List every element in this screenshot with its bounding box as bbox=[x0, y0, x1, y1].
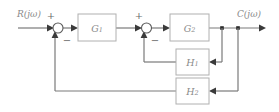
diagram-canvas: G1 G2 H1 H2 + − + − R(jω) C(jω) bbox=[0, 0, 279, 112]
sum2-minus-sign: − bbox=[151, 35, 159, 46]
sum2-plus-sign: + bbox=[135, 10, 143, 21]
arrow-into-sum2 bbox=[135, 25, 142, 32]
arrow-into-g1 bbox=[71, 25, 78, 32]
sum1-plus-sign: + bbox=[47, 10, 55, 21]
summing-junction-1 bbox=[53, 23, 63, 33]
output-signal-label: C(jω) bbox=[237, 9, 262, 19]
arrow-into-g2 bbox=[163, 25, 170, 32]
input-signal-label: R(jω) bbox=[16, 9, 41, 19]
arrow-output bbox=[259, 25, 266, 32]
arrow-into-h1 bbox=[209, 59, 216, 66]
summing-junction-2 bbox=[142, 23, 152, 33]
sum1-minus-sign: − bbox=[63, 35, 71, 46]
block-diagram: G1 G2 H1 H2 + − + − R(jω) C(jω) bbox=[0, 0, 279, 112]
arrow-into-h2 bbox=[209, 88, 216, 95]
